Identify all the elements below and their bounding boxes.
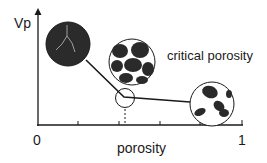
- critical-porosity-grains-icon: [109, 39, 155, 85]
- x-axis-label: porosity: [117, 140, 166, 156]
- x-tick-label-1: 1: [238, 132, 246, 148]
- suspension-grains-icon: [190, 82, 234, 126]
- critical-porosity-annotation: critical porosity: [167, 48, 253, 63]
- low-porosity-rock-icon: [46, 22, 90, 66]
- y-axis-arrow-icon: [35, 8, 42, 15]
- y-axis-label: Vp: [14, 15, 31, 31]
- x-tick-label-0: 0: [33, 132, 41, 148]
